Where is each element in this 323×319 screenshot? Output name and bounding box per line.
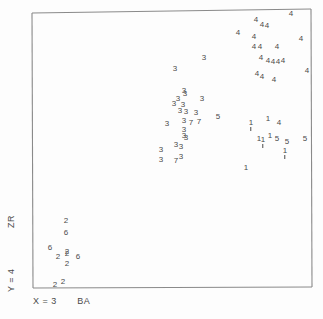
data-point-3: 3: [179, 153, 183, 161]
data-point-1: 1: [283, 147, 287, 155]
data-point-3: 3: [172, 100, 176, 108]
data-point-4: 4: [252, 33, 256, 41]
data-point-4: 4: [271, 58, 275, 66]
data-point-7: 7: [189, 119, 193, 127]
data-point-1: 1: [244, 164, 248, 172]
data-point-3: 3: [165, 120, 169, 128]
data-point-3: 3: [183, 90, 187, 98]
data-point-4: 4: [305, 67, 309, 75]
data-point-4: 4: [260, 21, 264, 29]
data-point-3: 3: [178, 107, 182, 115]
data-point-4: 4: [258, 43, 262, 51]
y-axis-label-group: ZR Y = 4: [2, 190, 24, 290]
data-point-3: 3: [176, 95, 180, 103]
data-point-4: 4: [236, 29, 240, 37]
data-point-1: 1: [261, 136, 265, 144]
data-point-2: 2: [53, 281, 57, 289]
data-point-4: 4: [277, 119, 281, 127]
data-point-5: 5: [216, 113, 220, 121]
data-point-4: 4: [252, 43, 256, 51]
data-point-3: 3: [182, 117, 186, 125]
x-axis-label-group: X = 3 BA: [33, 290, 90, 308]
data-point-2: 2: [56, 253, 60, 261]
data-point-3: 3: [174, 141, 178, 149]
x-axis-secondary-label: BA: [77, 296, 90, 306]
scatter-plot-screenshot: 4444444444444444444333333333333377333333…: [0, 0, 323, 319]
data-point-5: 5: [275, 135, 279, 143]
frame-bottom-edge: [33, 287, 312, 288]
data-point-2: 2: [64, 217, 68, 225]
data-point-3: 3: [179, 143, 183, 151]
data-point-4: 4: [272, 76, 276, 84]
data-point-5: 5: [285, 138, 289, 146]
data-point-4: 4: [281, 57, 285, 65]
data-point-4: 4: [259, 54, 263, 62]
data-point-6: 6: [76, 253, 80, 261]
data-point-3: 3: [200, 95, 204, 103]
data-point-4: 4: [254, 16, 258, 24]
data-point-4: 4: [299, 35, 303, 43]
data-point-5: 5: [303, 135, 307, 143]
y-axis-label: Y = 4: [6, 268, 16, 292]
data-point-1: 1: [266, 115, 270, 123]
data-point-3: 3: [194, 109, 198, 117]
data-point-4: 4: [266, 57, 270, 65]
data-point-1: 1: [268, 132, 272, 140]
frame-top-edge: [32, 9, 311, 13]
data-point-3: 3: [159, 156, 163, 164]
frame-right-edge: [311, 9, 312, 287]
data-point-4: 4: [260, 73, 264, 81]
data-point-4: 4: [265, 22, 269, 30]
data-point-1: 1: [249, 119, 253, 127]
data-point-2: 2: [65, 260, 69, 268]
data-point-4: 4: [275, 43, 279, 51]
data-point-6: 6: [48, 244, 52, 252]
data-point-4: 4: [276, 58, 280, 66]
x-axis-label: X = 3: [33, 296, 57, 306]
data-point-7: 7: [197, 118, 201, 126]
data-point-3: 3: [173, 65, 177, 73]
data-point-3: 3: [184, 134, 188, 142]
data-point-3: 3: [184, 108, 188, 116]
data-point-6: 6: [64, 229, 68, 237]
frame-left-edge: [32, 13, 33, 288]
data-point-2: 2: [61, 278, 65, 286]
data-point-4: 4: [289, 10, 293, 18]
data-point-3: 3: [202, 54, 206, 62]
data-point-7: 7: [174, 157, 178, 165]
data-point-4: 4: [255, 70, 259, 78]
data-point-2: 2: [65, 248, 69, 256]
y-axis-secondary-label: ZR: [6, 215, 16, 228]
data-point-3: 3: [159, 146, 163, 154]
